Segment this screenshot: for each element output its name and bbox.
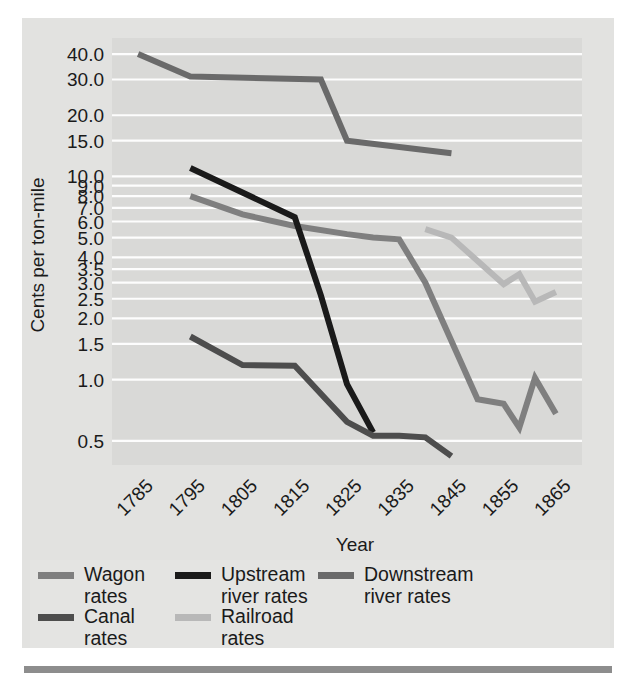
- legend-label-upstream-river-rates-line2: river rates: [221, 585, 308, 607]
- x-axis-tick-label: 1855: [478, 475, 523, 520]
- x-axis-tick-label: 1795: [164, 475, 209, 520]
- legend-swatch-upstream-river-rates: [175, 572, 211, 579]
- y-axis-tick-label: 2.0: [78, 308, 104, 329]
- legend-swatch-downstream-river-rates: [318, 572, 354, 579]
- x-axis-tick-label: 1815: [269, 475, 314, 520]
- legend: WagonratesUpstreamriver ratesDownstreamr…: [38, 563, 473, 649]
- y-axis-title: Cents per ton-mile: [27, 177, 48, 332]
- legend-label-downstream-river-rates: Downstream: [364, 563, 473, 585]
- y-axis-tick-label: 1.5: [78, 334, 104, 355]
- legend-label-railroad-rates: Railroad: [221, 605, 294, 627]
- legend-swatch-canal-rates: [38, 614, 74, 621]
- x-axis-tick-label: 1825: [321, 475, 366, 520]
- legend-swatch-railroad-rates: [175, 614, 211, 621]
- plot-area-background: [112, 38, 582, 465]
- transport-rates-line-chart: 40.030.020.015.010.09.08.07.06.05.04.03.…: [0, 0, 631, 687]
- x-axis-tick-label: 1805: [217, 475, 262, 520]
- x-axis-tick-label: 1835: [373, 475, 418, 520]
- legend-label-upstream-river-rates: Upstream: [221, 563, 306, 585]
- legend-label-downstream-river-rates-line2: river rates: [364, 585, 451, 607]
- x-axis-tick-label: 1785: [112, 475, 157, 520]
- legend-label-canal-rates-line2: rates: [84, 627, 128, 649]
- y-axis-tick-label: 1.0: [78, 370, 104, 391]
- x-axis-tick-label: 1865: [530, 475, 575, 520]
- y-axis-tick-label: 30.0: [67, 69, 104, 90]
- x-axis-tick-labels: 178517951805181518251835184518551865: [112, 475, 575, 520]
- y-axis-tick-labels: 40.030.020.015.010.09.08.07.06.05.04.03.…: [67, 44, 104, 452]
- x-axis-title: Year: [336, 534, 375, 555]
- y-axis-tick-label: 0.5: [78, 431, 104, 452]
- x-axis-tick-label: 1845: [426, 475, 471, 520]
- scanned-page: 40.030.020.015.010.09.08.07.06.05.04.03.…: [0, 0, 631, 687]
- y-axis-tick-label: 40.0: [67, 44, 104, 65]
- legend-label-canal-rates: Canal: [84, 605, 135, 627]
- legend-label-railroad-rates-line2: rates: [221, 627, 265, 649]
- legend-swatch-wagon-rates: [38, 572, 74, 579]
- y-axis-tick-label: 15.0: [67, 131, 104, 152]
- y-axis-tick-label: 20.0: [67, 105, 104, 126]
- legend-label-wagon-rates-line2: rates: [84, 585, 128, 607]
- y-axis-tick-label: 2.5: [78, 289, 104, 310]
- legend-label-wagon-rates: Wagon: [84, 563, 145, 585]
- y-axis-tick-label: 5.0: [78, 228, 104, 249]
